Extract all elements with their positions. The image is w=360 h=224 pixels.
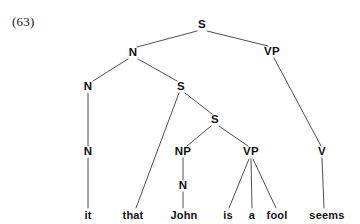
tree-node-v-matrix: V [318, 146, 326, 158]
tree-branch-n_upper-to-s_embedded [138, 59, 177, 81]
tree-branch-v_matrix-to-seems [322, 158, 324, 208]
tree-branch-s_embedded-to-that [136, 93, 179, 208]
tree-node-n-upper: N [129, 47, 138, 59]
tree-node-vp-embedded: VP [243, 146, 259, 158]
tree-node-s-embedded: S [177, 81, 185, 93]
tree-leaf-that: that [123, 210, 144, 221]
tree-branch-vp_matrix-to-v_matrix [274, 58, 321, 146]
tree-node-n-john: N [179, 180, 188, 192]
tree-node-root-s: S [198, 19, 206, 31]
tree-leaf-john: John [170, 210, 197, 221]
syntax-tree-figure: (63) SNVPNSNSNPVPVN itthatJohnisafoolsee… [0, 0, 360, 224]
tree-branch-s_inner-to-vp_embedded [219, 126, 248, 146]
edge-group [88, 31, 324, 208]
tree-node-s-inner: S [211, 114, 219, 126]
tree-branch-n_upper-to-n_mid [93, 59, 128, 81]
tree-node-np-subject: NP [175, 146, 192, 158]
tree-branch-vp_embedded-to-a [251, 159, 252, 208]
tree-branch-vp_embedded-to-fool [253, 159, 276, 208]
tree-branch-s_embedded-to-s_inner [185, 93, 212, 114]
tree-node-n-mid: N [84, 81, 93, 93]
tree-node-vp-matrix: VP [264, 46, 280, 58]
tree-leaf-seems: seems [309, 210, 344, 221]
tree-branch-s_inner-to-np_subject [187, 126, 211, 146]
tree-branch-root_s-to-n_upper [137, 31, 197, 47]
tree-node-n-lower: N [84, 146, 93, 158]
tree-leaf-is: is [223, 210, 233, 221]
tree-branch-root_s-to-vp_matrix [207, 31, 268, 46]
tree-branch-vp_embedded-to-is [229, 159, 249, 208]
tree-leaf-it: it [84, 210, 91, 221]
tree-leaf-fool: fool [267, 210, 288, 221]
tree-leaf-a: a [249, 210, 255, 221]
